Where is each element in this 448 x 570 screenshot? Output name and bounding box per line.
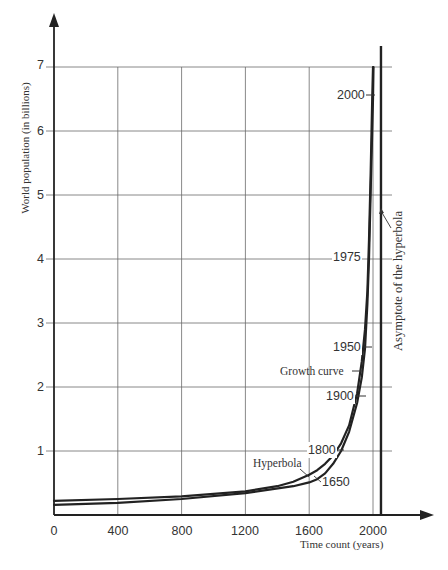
leader-asymptote [381, 211, 391, 228]
population-chart: 1 2 3 4 5 6 7 0 400 800 1200 1600 2000 W… [0, 0, 448, 570]
grid-lines [46, 67, 392, 515]
y-tick-label: 3 [20, 315, 44, 331]
y-tick-label: 1 [20, 443, 44, 459]
x-axis-title: Time count (years) [300, 538, 383, 550]
y-axis-title: World population (in billions) [19, 82, 31, 213]
x-axis-arrow-icon [420, 510, 434, 520]
annotation-leaders [300, 95, 391, 482]
annotation-1975: 1975 [332, 249, 362, 265]
annotation-2000: 2000 [336, 87, 366, 103]
y-tick-label: 4 [20, 251, 44, 267]
x-tick-label: 1200 [220, 523, 270, 539]
growth-curve-line [54, 67, 374, 505]
y-tick-label: 7 [20, 57, 44, 73]
annotation-hyperbola: Hyperbola [252, 455, 303, 471]
x-tick-label: 800 [157, 523, 207, 539]
y-axis-arrow-icon [49, 13, 59, 27]
arrow-asymptote-icon [379, 208, 384, 214]
x-tick-label: 0 [29, 523, 79, 539]
x-tick-label: 2000 [348, 523, 398, 539]
x-tick-label: 400 [93, 523, 143, 539]
y-tick-label: 2 [20, 379, 44, 395]
hyperbola-line [54, 67, 373, 501]
annotation-1900: 1900 [325, 388, 355, 404]
annotation-1800: 1800 [307, 442, 337, 458]
axes [49, 13, 434, 520]
chart-plot-area [0, 0, 448, 570]
annotation-growth-curve: Growth curve [279, 363, 345, 379]
annotation-1950: 1950 [332, 339, 362, 355]
annotation-1650: 1650 [321, 474, 351, 490]
asymptote-label: Asymptote of the hyperbola [391, 211, 406, 351]
data-curves [54, 67, 374, 505]
x-tick-label: 1600 [284, 523, 334, 539]
